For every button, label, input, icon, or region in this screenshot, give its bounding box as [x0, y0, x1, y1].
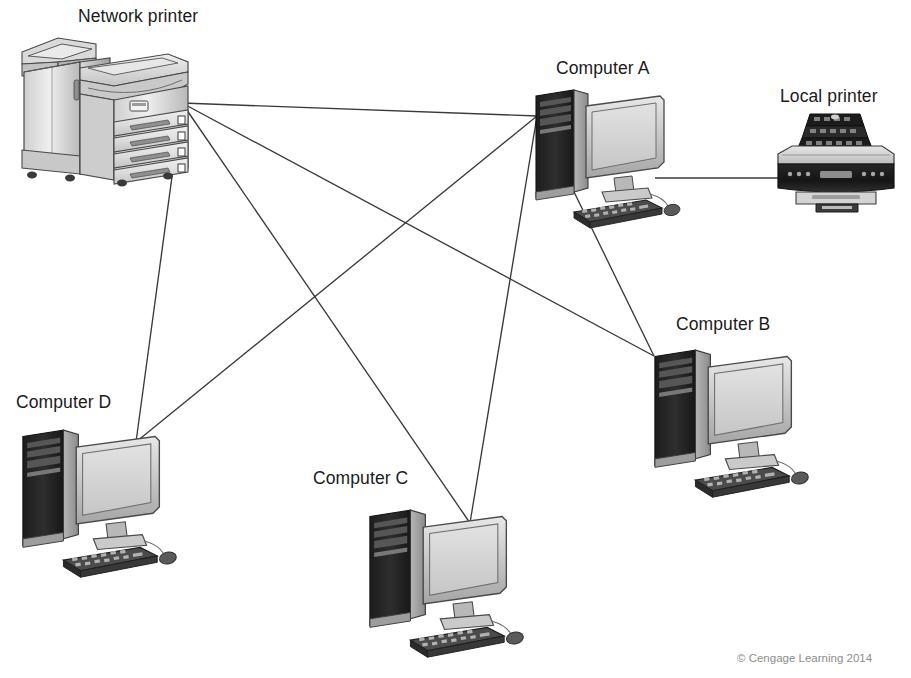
local-printer-icon — [772, 108, 900, 216]
label-computer-b: Computer B — [676, 314, 770, 335]
label-computer-c: Computer C — [313, 468, 408, 489]
label-local-printer: Local printer — [780, 86, 878, 107]
node-computer-c[interactable] — [355, 508, 533, 670]
node-local-printer[interactable] — [772, 108, 900, 216]
link-network-printer-to-computer-c — [182, 103, 470, 523]
node-computer-b[interactable] — [640, 348, 818, 510]
link-computer-a-to-computer-d — [136, 116, 537, 442]
desktop-computer-icon — [528, 88, 683, 240]
desktop-computer-icon — [8, 428, 186, 590]
link-network-printer-to-computer-a — [182, 103, 537, 116]
node-computer-d[interactable] — [8, 428, 186, 590]
network-printer-icon — [18, 28, 196, 190]
link-computer-a-to-computer-c — [470, 116, 537, 523]
label-computer-d: Computer D — [16, 392, 111, 413]
label-computer-a: Computer A — [556, 58, 649, 79]
node-network-printer[interactable] — [18, 28, 196, 190]
node-computer-a[interactable] — [528, 88, 683, 240]
desktop-computer-icon — [640, 348, 818, 510]
copyright-notice: © Cengage Learning 2014 — [737, 652, 872, 664]
desktop-computer-icon — [355, 508, 533, 670]
label-network-printer: Network printer — [78, 6, 198, 27]
network-diagram-canvas: Network printer — [0, 0, 911, 678]
